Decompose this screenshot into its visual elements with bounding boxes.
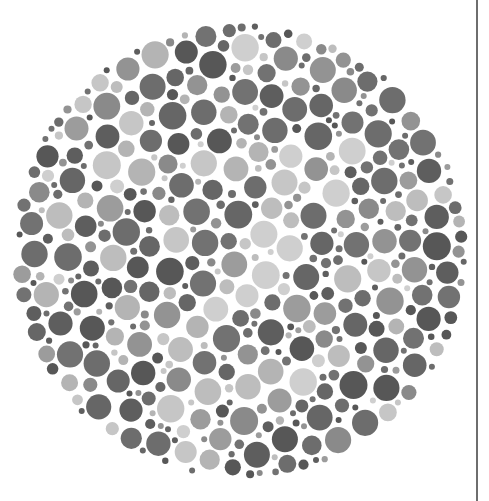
plate-dot (282, 97, 307, 122)
plate-dot (139, 282, 159, 302)
plate-dot (218, 40, 230, 52)
plate-dot (243, 65, 253, 75)
plate-dot (310, 291, 319, 300)
plate-dot (17, 231, 23, 237)
plate-dot (146, 227, 152, 233)
plate-dot (295, 399, 308, 412)
plate-dot (355, 342, 367, 354)
plate-dot (331, 228, 337, 234)
plate-dot (378, 219, 384, 225)
plate-dot (146, 432, 170, 456)
plate-dot (323, 271, 329, 277)
plate-dot (167, 89, 178, 100)
plate-dot (310, 232, 333, 255)
plate-dot (167, 367, 191, 391)
plate-dot (333, 255, 343, 265)
plate-dot (317, 383, 333, 399)
plate-dot (191, 150, 217, 176)
plate-dot (217, 420, 223, 426)
plate-dot (54, 274, 65, 285)
plate-dot (425, 205, 449, 229)
plate-dot (110, 179, 124, 193)
plate-dot (163, 227, 189, 253)
plate-dot (261, 198, 282, 219)
plate-dot (20, 212, 43, 235)
plate-dot (254, 134, 260, 140)
plate-dot (44, 311, 50, 317)
plate-dot (124, 280, 137, 293)
plate-dot (211, 218, 221, 228)
plate-dot (54, 117, 63, 126)
plate-dot (28, 323, 46, 341)
plate-dot (65, 117, 89, 141)
plate-dot (320, 374, 327, 381)
plate-dot (458, 279, 465, 286)
plate-dot (355, 63, 364, 72)
plate-dot (343, 313, 367, 337)
plate-dot (359, 199, 379, 219)
plate-dot (389, 119, 395, 125)
plate-dot (68, 278, 74, 284)
plate-dot (229, 451, 235, 457)
plate-dot (220, 106, 238, 124)
plate-dot (202, 180, 222, 200)
plate-dot (352, 410, 378, 436)
plate-dot (381, 366, 388, 373)
plate-dot (332, 78, 357, 103)
plate-dot (252, 261, 280, 289)
plate-dot (394, 224, 401, 231)
plate-dot (111, 349, 117, 355)
plate-dot (183, 198, 210, 225)
plate-dot (251, 321, 257, 327)
plate-dot (238, 344, 258, 364)
plate-dot (156, 258, 184, 286)
plate-dot (172, 437, 178, 443)
plate-dot (140, 102, 154, 116)
plate-dot (115, 295, 140, 320)
plate-dot (272, 170, 298, 196)
plate-dot (155, 382, 165, 392)
plate-dot (111, 81, 123, 93)
plate-dot (16, 287, 31, 302)
plate-dot (236, 284, 259, 307)
plate-dot (107, 370, 130, 393)
plate-dot (260, 108, 268, 116)
plate-dot (140, 188, 147, 195)
plate-dot (402, 133, 408, 139)
plate-dot (127, 332, 152, 357)
plate-dot (193, 351, 217, 375)
plate-dot (264, 294, 280, 310)
plate-dot (232, 310, 249, 327)
plate-dot (231, 34, 258, 61)
plate-dot (97, 195, 124, 222)
plate-dot (336, 53, 351, 68)
plate-dot (39, 207, 45, 213)
plate-dot (367, 253, 373, 259)
plate-dot (152, 187, 165, 200)
plate-dot (252, 24, 258, 30)
plate-dot (221, 252, 247, 278)
plate-dot (186, 316, 208, 338)
plate-dot (250, 308, 261, 319)
plate-dot (329, 370, 340, 381)
plate-dot (179, 294, 196, 311)
plate-dot (46, 202, 72, 228)
plate-dot (367, 259, 390, 282)
plate-dot (231, 63, 241, 73)
plate-dot (310, 57, 336, 83)
plate-dot (36, 272, 45, 281)
plate-dot (49, 126, 55, 132)
plate-dot (244, 442, 270, 468)
plate-dot (26, 306, 41, 321)
plate-dot (166, 38, 174, 46)
plate-dot (274, 47, 298, 71)
plate-dot (169, 173, 194, 198)
plate-dot (168, 197, 174, 203)
plate-dot (435, 152, 441, 158)
plate-dot (125, 91, 139, 105)
plate-dot (207, 129, 232, 154)
plate-dot (256, 432, 262, 438)
plate-dot (395, 400, 401, 406)
plate-dot (200, 450, 220, 470)
plate-dot (322, 456, 328, 462)
